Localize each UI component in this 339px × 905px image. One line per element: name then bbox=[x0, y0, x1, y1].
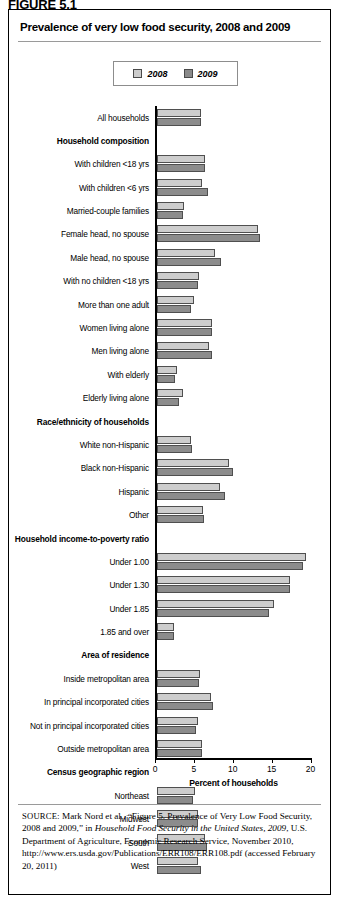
chart-bar-row: With elderly bbox=[9, 363, 329, 386]
source-italic-title: Household Food Security in the United St… bbox=[95, 823, 286, 833]
bar-group bbox=[157, 202, 327, 221]
x-tick-label: 0 bbox=[153, 764, 158, 774]
legend-item-2009: 2009 bbox=[184, 69, 218, 79]
bar-2009 bbox=[157, 702, 214, 710]
chart-legend: 2008 2009 bbox=[113, 61, 238, 86]
bar-2008 bbox=[157, 740, 203, 748]
legend-label-2009: 2009 bbox=[198, 69, 218, 79]
category-label: Married-couple families bbox=[0, 207, 149, 215]
bar-2008 bbox=[157, 179, 202, 187]
category-label: Not in principal incorporated cities bbox=[0, 722, 149, 730]
category-label: Northeast bbox=[0, 792, 149, 800]
category-label: Area of residence bbox=[0, 651, 149, 659]
bar-group bbox=[157, 295, 327, 314]
x-tick-mark bbox=[194, 758, 195, 763]
bar-2009 bbox=[157, 234, 260, 242]
source-prefix: SOURCE bbox=[22, 811, 57, 821]
bar-group bbox=[157, 623, 327, 642]
legend-item-2008: 2008 bbox=[133, 69, 167, 79]
chart-bar-row: White non-Hispanic bbox=[9, 433, 329, 456]
bar-2008 bbox=[157, 506, 204, 514]
category-label: Inside metropolitan area bbox=[0, 675, 149, 683]
category-label: Hispanic bbox=[0, 488, 149, 496]
x-tick-mark bbox=[233, 758, 234, 763]
legend-swatch-2008-icon bbox=[133, 69, 142, 78]
chart-bar-row: All households bbox=[9, 106, 329, 129]
category-label: Male head, no spouse bbox=[0, 254, 149, 262]
bar-2008 bbox=[157, 155, 205, 163]
bar-group bbox=[157, 272, 327, 291]
category-label: Under 1.30 bbox=[0, 581, 149, 589]
bar-group bbox=[157, 319, 327, 338]
chart-bar-row: With children <18 yrs bbox=[9, 153, 329, 176]
bar-group bbox=[157, 155, 327, 174]
bar-2009 bbox=[157, 328, 213, 336]
bar-2009 bbox=[157, 515, 204, 523]
source-divider bbox=[18, 804, 321, 805]
category-label: Men living alone bbox=[0, 347, 149, 355]
bar-group bbox=[157, 740, 327, 759]
chart-bar-row: 1.85 and over bbox=[9, 621, 329, 644]
x-tick-mark bbox=[272, 758, 273, 763]
chart-bar-row: Married-couple families bbox=[9, 200, 329, 223]
chart-bar-row: Other bbox=[9, 504, 329, 527]
bar-group bbox=[157, 435, 327, 454]
bar-2008 bbox=[157, 389, 183, 397]
bar-2009 bbox=[157, 796, 194, 804]
chart-group-header: Race/ethnicity of households bbox=[9, 410, 329, 433]
bar-2008 bbox=[157, 600, 274, 608]
bar-2008 bbox=[157, 553, 306, 561]
bar-group bbox=[157, 108, 327, 127]
bar-2009 bbox=[157, 726, 197, 734]
chart-bar-row: Not in principal incorporated cities bbox=[9, 714, 329, 737]
category-label: Race/ethnicity of households bbox=[0, 418, 149, 426]
bar-group bbox=[157, 365, 327, 384]
category-label: Women living alone bbox=[0, 324, 149, 332]
legend-label-2008: 2008 bbox=[147, 69, 167, 79]
category-label: Household composition bbox=[0, 137, 149, 145]
bar-group bbox=[157, 342, 327, 361]
category-label: Household income-to-poverty ratio bbox=[0, 535, 149, 543]
bar-2008 bbox=[157, 202, 185, 210]
category-label: With children <6 yrs bbox=[0, 184, 149, 192]
bar-group bbox=[157, 576, 327, 595]
chart-group-header: Area of residence bbox=[9, 644, 329, 667]
bar-2009 bbox=[157, 351, 213, 359]
x-tick-mark bbox=[311, 758, 312, 763]
chart-bar-row: Elderly living alone bbox=[9, 387, 329, 410]
bar-2009 bbox=[157, 445, 193, 453]
category-label: 1.85 and over bbox=[0, 628, 149, 636]
bar-2009 bbox=[157, 281, 199, 289]
chart-bar-row: Inside metropolitan area bbox=[9, 667, 329, 690]
bar-2009 bbox=[157, 118, 201, 126]
bar-2009 bbox=[157, 305, 192, 313]
bar-group bbox=[157, 693, 327, 712]
bar-group bbox=[157, 716, 327, 735]
bar-2008 bbox=[157, 693, 211, 701]
legend-swatch-2009-icon bbox=[184, 69, 193, 78]
bar-2008 bbox=[157, 342, 210, 350]
bar-2008 bbox=[157, 459, 229, 467]
chart-group-header: Household composition bbox=[9, 129, 329, 152]
bar-group bbox=[157, 482, 327, 501]
bar-2009 bbox=[157, 398, 180, 406]
bar-2009 bbox=[157, 258, 222, 266]
bar-2008 bbox=[157, 623, 174, 631]
x-tick-label: 5 bbox=[192, 764, 197, 774]
category-label: Under 1.00 bbox=[0, 558, 149, 566]
bar-2009 bbox=[157, 492, 225, 500]
bar-2008 bbox=[157, 319, 213, 327]
bar-group bbox=[157, 389, 327, 408]
x-axis-ticks: 05101520 bbox=[9, 758, 329, 768]
chart-bar-row: Hispanic bbox=[9, 480, 329, 503]
x-tick-label: 20 bbox=[306, 764, 315, 774]
bar-2009 bbox=[157, 375, 176, 383]
bar-group bbox=[157, 459, 327, 478]
bar-2009 bbox=[157, 188, 208, 196]
bar-group bbox=[157, 248, 327, 267]
category-label: All households bbox=[0, 114, 149, 122]
source-note: SOURCE: Mark Nord et al., “Figure 5. Pre… bbox=[22, 810, 317, 872]
category-label: More than one adult bbox=[0, 301, 149, 309]
category-label: In principal incorporated cities bbox=[0, 698, 149, 706]
chart-bar-row: More than one adult bbox=[9, 293, 329, 316]
